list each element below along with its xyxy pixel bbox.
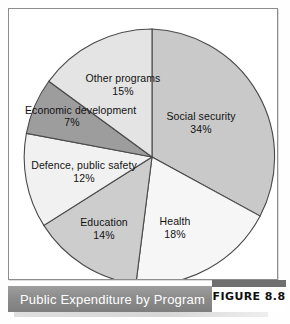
pie-chart (8, 8, 278, 280)
figure-number-label: FIGURE 8.8 (212, 290, 286, 303)
figure-number-accent-bar (212, 280, 286, 287)
figure-caption: Public Expenditure by Program (20, 292, 205, 307)
figure-number-block: FIGURE 8.8 (212, 280, 286, 312)
caption-band-shadow (14, 312, 268, 317)
figure-container: Social security 34% Health 18% Education… (0, 0, 290, 324)
chart-frame: Social security 34% Health 18% Education… (8, 8, 278, 280)
